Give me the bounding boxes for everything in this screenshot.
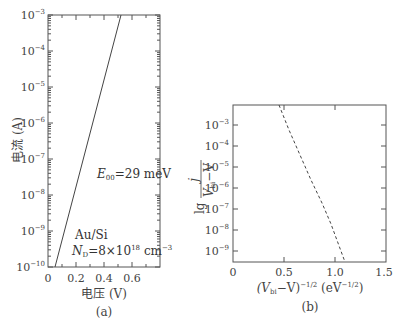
annotation-material: Au/Si xyxy=(74,228,108,242)
x-tick-labels-b: 0 0.5 1.0 1.5 xyxy=(230,266,393,279)
ytick-b-2: 10−7 xyxy=(205,202,229,216)
xtick-a-3: 0.6 xyxy=(123,272,141,285)
ytick-a-0: 10−10 xyxy=(16,260,45,274)
ytick-b-1: 10−8 xyxy=(205,223,229,237)
dashed-curve-b xyxy=(279,105,345,262)
xtick-b-2: 1.0 xyxy=(326,266,344,279)
panel-b: 10−9 10−8 10−7 10−6 10−5 10−4 10−3 0 0.5… xyxy=(187,105,393,314)
figure: 10−10 10−9 10−8 10−7 10−6 10−5 10−4 10−3… xyxy=(0,0,400,323)
ticks-b xyxy=(233,105,386,262)
plot-frame-b xyxy=(233,105,386,262)
x-axis-label-a: 电压 (V) xyxy=(81,287,127,301)
xtick-b-3: 1.5 xyxy=(375,266,393,279)
panel-label-a: (a) xyxy=(96,305,113,319)
xtick-b-0: 0 xyxy=(230,266,237,279)
annotation-e00: E00=29 meV xyxy=(96,167,171,182)
xtick-a-2: 0.4 xyxy=(95,272,113,285)
y-axis-label-a: 电流 (A) xyxy=(11,117,25,163)
ylabel-denominator: Vbi−V xyxy=(202,163,217,197)
ytick-a-7: 10−3 xyxy=(21,8,45,22)
ytick-a-2: 10−8 xyxy=(21,188,45,202)
xtick-a-1: 0.2 xyxy=(67,272,85,285)
ytick-b-5: 10−4 xyxy=(205,139,230,153)
xtick-a-0: 0 xyxy=(45,272,52,285)
x-axis-label-b: (Vbi−V)−1/2 (eV−1/2) xyxy=(257,281,364,296)
ytick-a-5: 10−5 xyxy=(21,80,45,94)
panel-a: 10−10 10−9 10−8 10−7 10−6 10−5 10−4 10−3… xyxy=(11,8,172,319)
ytick-a-6: 10−4 xyxy=(21,44,46,58)
x-tick-labels-a: 0 0.2 0.4 0.6 xyxy=(45,272,141,285)
xtick-b-1: 0.5 xyxy=(275,266,293,279)
ylabel-numerator: j xyxy=(187,178,201,185)
panel-label-b: (b) xyxy=(301,300,318,314)
annotation-nd: ND=8×1018 cm−3 xyxy=(71,244,172,259)
ylabel-lg: lg xyxy=(193,202,207,214)
ytick-b-0: 10−9 xyxy=(205,244,229,258)
ytick-b-6: 10−3 xyxy=(205,118,229,132)
ytick-a-1: 10−9 xyxy=(21,224,45,238)
